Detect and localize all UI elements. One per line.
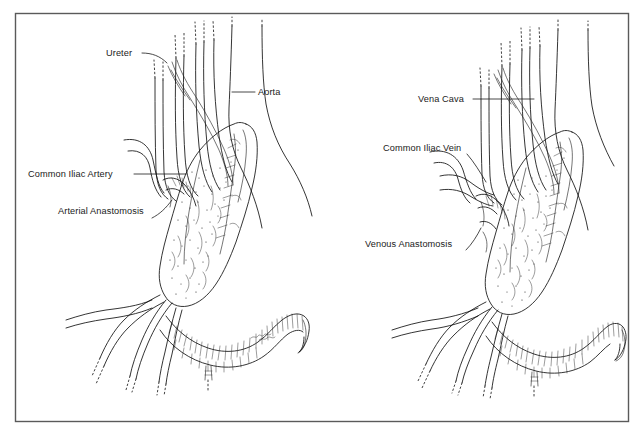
illustration-frame (16, 14, 629, 422)
label-aorta: Aorta (258, 87, 281, 97)
figure-root: Ureter Aorta Common Iliac Artery Arteria… (0, 0, 641, 436)
label-vena-cava: Vena Cava (418, 94, 465, 104)
label-ureter: Ureter (106, 48, 132, 58)
label-arterial-anastomosis: Arterial Anastomosis (58, 206, 144, 216)
label-common-iliac-artery: Common Iliac Artery (28, 169, 113, 179)
label-common-iliac-vein: Common Iliac Vein (383, 143, 461, 153)
label-venous-anastomosis: Venous Anastomosis (365, 239, 452, 249)
anatomical-illustration: Ureter Aorta Common Iliac Artery Arteria… (0, 0, 641, 436)
